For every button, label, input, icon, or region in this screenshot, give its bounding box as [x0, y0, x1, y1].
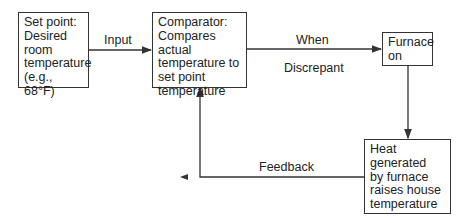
- set-point-line: (e.g., 68°F): [24, 71, 83, 99]
- furnace-line: on: [388, 50, 427, 64]
- heat-line: by furnace: [370, 171, 445, 185]
- input-label: Input: [104, 33, 132, 47]
- set-point-line: room: [24, 44, 83, 58]
- furnace-box: Furnace on: [382, 32, 433, 66]
- set-point-box: Set point: Desired room temperature (e.g…: [18, 12, 89, 88]
- heat-line: temperature: [370, 198, 445, 212]
- heat-line: Heat: [370, 143, 445, 157]
- heat-box: Heat generated by furnace raises house t…: [364, 139, 451, 214]
- feedback-label: Feedback: [259, 160, 314, 174]
- set-point-line: Set point:: [24, 16, 83, 30]
- comparator-line: temperature to: [158, 57, 241, 71]
- comparator-line: Comparator:: [158, 16, 241, 30]
- comparator-line: Compares actual: [158, 30, 241, 58]
- comparator-box: Comparator: Compares actual temperature …: [152, 12, 247, 88]
- comparator-line: temperature: [158, 85, 241, 99]
- when-label: When: [296, 33, 329, 47]
- set-point-line: Desired: [24, 30, 83, 44]
- set-point-line: temperature: [24, 57, 83, 71]
- furnace-line: Furnace: [388, 36, 427, 50]
- discrepant-label: Discrepant: [284, 61, 344, 75]
- heat-line: raises house: [370, 184, 445, 198]
- heat-line: generated: [370, 157, 445, 171]
- comparator-line: set point: [158, 71, 241, 85]
- feedback-mid-arrow-icon: [180, 174, 188, 180]
